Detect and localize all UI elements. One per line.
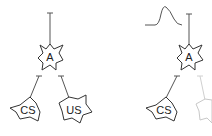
neuron-cs-label: CS [20, 104, 35, 116]
neuron-cs-left: CS [10, 97, 40, 121]
neuron-us-right-faded [196, 99, 212, 123]
neuron-us-left: US [59, 95, 92, 123]
right-panel: A CS [145, 7, 212, 123]
neuron-cs-right: CS [146, 97, 177, 121]
cs-axon-left [30, 76, 39, 98]
left-panel: A CS US [10, 13, 92, 123]
us-axon-right-faded [200, 76, 205, 100]
response-waveform [145, 7, 182, 25]
neuron-a-right: A [177, 44, 203, 70]
cs-axon-right [166, 76, 177, 98]
neuron-a-label: A [185, 51, 193, 63]
neuron-a-left: A [38, 44, 63, 70]
neuron-cs-label: CS [156, 104, 171, 116]
neuron-us-label: US [66, 104, 81, 116]
diagram-canvas: A CS US A [0, 0, 212, 136]
neuron-a-label: A [46, 51, 54, 63]
us-axon-left [61, 76, 69, 98]
